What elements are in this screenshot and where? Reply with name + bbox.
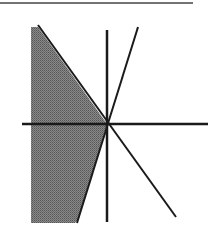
inequality-graph xyxy=(0,0,222,227)
